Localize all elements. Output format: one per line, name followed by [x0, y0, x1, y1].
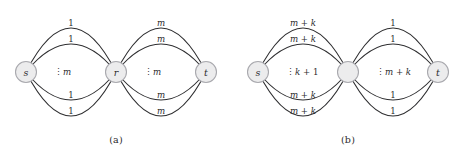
node-circle-mid: [338, 62, 359, 83]
bundle-multiplicity-r-t: m: [153, 67, 161, 77]
edge-label-mid-t-0: 1: [390, 18, 395, 28]
figure-panel-b: m + km + km + km + k⋮k + 11111⋮m + kst (…: [232, 0, 464, 162]
node-label-s: s: [256, 67, 261, 78]
node-s: s: [16, 62, 37, 83]
edge-label-s-r-3: 1: [68, 106, 73, 116]
edge-label-s-mid-2: m + k: [290, 90, 316, 100]
edge-label-s-mid-3: m + k: [290, 106, 316, 116]
edge-label-r-t-2: m: [157, 90, 165, 100]
edge-label-s-r-2: 1: [68, 90, 73, 100]
edge-label-s-r-1: 1: [68, 34, 73, 44]
bundle-dots-r-t: ⋮: [144, 67, 153, 77]
edge-label-mid-t-2: 1: [390, 90, 395, 100]
panel-a-caption: (a): [0, 134, 232, 145]
node-r: r: [106, 62, 127, 83]
edge-label-s-r-0: 1: [68, 18, 73, 28]
node-label-t: t: [204, 67, 208, 78]
bundle-dots-mid-t: ⋮: [376, 67, 385, 77]
panel-b-graph: m + km + km + km + k⋮k + 11111⋮m + kst: [232, 0, 464, 135]
bundle-multiplicity-s-mid: k + 1: [295, 67, 318, 77]
bundle-multiplicity-mid-t: m + k: [385, 67, 411, 77]
edge-label-s-mid-1: m + k: [290, 34, 316, 44]
bundle-multiplicity-s-r: m: [63, 67, 71, 77]
bundle-dots-s-mid: ⋮: [286, 67, 295, 77]
node-s: s: [248, 62, 269, 83]
edge-label-mid-t-3: 1: [390, 106, 395, 116]
edge-label-s-mid-0: m + k: [290, 18, 316, 28]
edge-label-r-t-0: m: [157, 18, 165, 28]
node-t: t: [196, 62, 217, 83]
node-mid: [338, 62, 359, 83]
figure-canvas: 1111⋮mmmmm⋮msrt (a) m + km + km + km + k…: [0, 0, 464, 162]
node-t: t: [428, 62, 449, 83]
panel-b-caption: (b): [232, 134, 464, 145]
bundle-dots-s-r: ⋮: [54, 67, 63, 77]
edge-label-r-t-3: m: [157, 106, 165, 116]
edge-label-r-t-1: m: [157, 34, 165, 44]
panel-a-graph: 1111⋮mmmmm⋮msrt: [0, 0, 232, 135]
node-label-s: s: [24, 67, 29, 78]
node-label-t: t: [436, 67, 440, 78]
edge-label-mid-t-1: 1: [390, 34, 395, 44]
figure-panel-a: 1111⋮mmmmm⋮msrt (a): [0, 0, 232, 162]
